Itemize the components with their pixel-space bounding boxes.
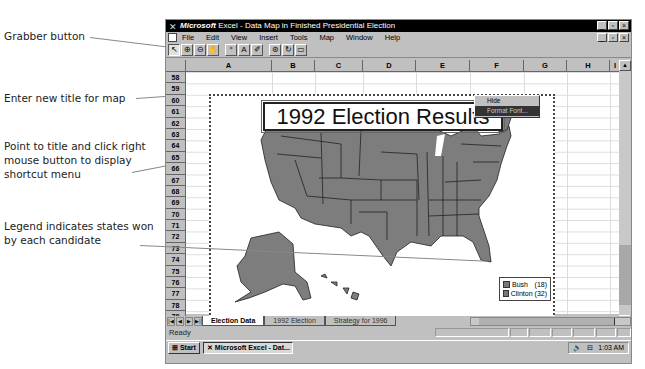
app-name: Microsoft: [180, 21, 216, 30]
redraw-map-icon[interactable]: ↻: [282, 44, 294, 56]
excel-window: ✕ Microsoft Excel - Data Map in Finished…: [165, 19, 632, 364]
column-headers: A B C D E F G H I: [166, 60, 621, 72]
system-tray: 🔈 ⊟ 1:03 AM: [568, 342, 629, 354]
legend-item-clinton: Clinton (32): [503, 289, 547, 298]
document-icon[interactable]: [168, 33, 177, 42]
custom-pin-icon[interactable]: ✐: [251, 44, 263, 56]
start-button[interactable]: ⊞ Start: [168, 342, 200, 354]
callout-legend: Legend indicates states won by each cand…: [4, 219, 154, 247]
first-sheet-icon[interactable]: |◀: [167, 317, 175, 326]
callout-grabber-button: Grabber button: [4, 29, 85, 43]
worksheet-grid[interactable]: A B C D E F G H I 58 59 60 61 62 63 64 6…: [166, 60, 621, 314]
show-control-icon[interactable]: ▭: [295, 44, 307, 56]
menu-bar: File Edit View Insert Tools Map Window H…: [166, 32, 631, 43]
minimize-button[interactable]: _: [597, 21, 607, 30]
row-header[interactable]: 64: [166, 140, 186, 151]
horizontal-scrollbar[interactable]: [470, 317, 631, 326]
tab-1992-election[interactable]: 1992 Election: [264, 316, 324, 326]
zoom-out-icon[interactable]: ⊖: [194, 44, 206, 56]
maximize-button[interactable]: ▫: [608, 21, 618, 30]
scroll-up-icon[interactable]: ▲: [619, 60, 631, 71]
column-header[interactable]: E: [416, 60, 470, 72]
map-legend[interactable]: Bush (18) Clinton (32): [499, 277, 551, 301]
menu-item-format-font[interactable]: Format Font...: [475, 106, 539, 116]
legend-swatch: [503, 290, 509, 297]
window-title: Excel - Data Map in Finished Presidentia…: [218, 21, 395, 30]
row-header[interactable]: 69: [166, 197, 186, 208]
row-headers: 58 59 60 61 62 63 64 65 66 67 68 69 70 7…: [166, 72, 186, 323]
last-sheet-icon[interactable]: ▶|: [194, 317, 202, 326]
doc-restore-button[interactable]: ▫: [608, 33, 618, 42]
taskbar-excel-item[interactable]: ✕ Microsoft Excel - Dat...: [203, 342, 293, 354]
column-header[interactable]: C: [315, 60, 363, 72]
map-title[interactable]: 1992 Election Results: [263, 102, 503, 131]
legend-swatch: [503, 281, 510, 288]
column-header[interactable]: G: [524, 60, 567, 72]
clock[interactable]: 1:03 AM: [598, 343, 624, 353]
tab-strategy-1996[interactable]: Strategy for 1996: [325, 316, 397, 326]
tab-election-data[interactable]: Election Data: [202, 316, 264, 326]
network-icon[interactable]: ⊟: [587, 343, 593, 353]
menu-help[interactable]: Help: [385, 32, 400, 43]
title-bar[interactable]: ✕ Microsoft Excel - Data Map in Finished…: [166, 20, 631, 32]
prev-sheet-icon[interactable]: ◀: [176, 317, 184, 326]
column-header[interactable]: A: [186, 60, 272, 72]
display-entire-icon[interactable]: ⊛: [269, 44, 281, 56]
row-header[interactable]: 77: [166, 288, 186, 299]
row-header[interactable]: 59: [166, 83, 186, 94]
row-header[interactable]: 78: [166, 300, 186, 311]
column-header[interactable]: H: [567, 60, 610, 72]
row-header[interactable]: 58: [166, 72, 186, 83]
grabber-hand-icon[interactable]: ✋: [207, 44, 219, 56]
row-header[interactable]: 65: [166, 152, 186, 163]
data-map-object[interactable]: 1992 Election Results Bush (18) Clinton …: [209, 94, 555, 322]
column-header[interactable]: D: [363, 60, 416, 72]
row-header[interactable]: 75: [166, 266, 186, 277]
menu-edit[interactable]: Edit: [206, 32, 219, 43]
menu-view[interactable]: View: [231, 32, 247, 43]
row-header[interactable]: 71: [166, 220, 186, 231]
add-text-icon[interactable]: A: [238, 44, 250, 56]
scroll-thumb[interactable]: [619, 245, 631, 305]
taskbar: ⊞ Start ✕ Microsoft Excel - Dat... 🔈 ⊟ 1…: [166, 340, 631, 354]
map-toolbar: ↖ ⊕ ⊖ ✋ ⁺ A ✐ ⊛ ↻ ▭: [166, 43, 631, 58]
vertical-scrollbar[interactable]: ▲ ▼: [619, 60, 631, 326]
hscroll-thumb[interactable]: [479, 318, 615, 325]
status-bar: Ready: [166, 327, 631, 338]
row-header[interactable]: 73: [166, 243, 186, 254]
column-header[interactable]: F: [470, 60, 524, 72]
row-header[interactable]: 70: [166, 209, 186, 220]
row-header[interactable]: 66: [166, 163, 186, 174]
menu-tools[interactable]: Tools: [290, 32, 308, 43]
menu-window[interactable]: Window: [346, 32, 373, 43]
shortcut-menu: Hide Format Font...: [474, 95, 540, 118]
row-header[interactable]: 76: [166, 277, 186, 288]
leader-line: [90, 37, 168, 47]
row-header[interactable]: 63: [166, 129, 186, 140]
next-sheet-icon[interactable]: ▶: [185, 317, 193, 326]
zoom-in-icon[interactable]: ⊕: [181, 44, 193, 56]
doc-close-button[interactable]: ×: [619, 33, 629, 42]
menu-insert[interactable]: Insert: [259, 32, 278, 43]
row-header[interactable]: 62: [166, 118, 186, 129]
speaker-icon[interactable]: 🔈: [573, 343, 582, 353]
row-header[interactable]: 67: [166, 175, 186, 186]
status-text: Ready: [169, 327, 191, 338]
legend-item-bush: Bush (18): [503, 280, 547, 289]
row-header[interactable]: 74: [166, 254, 186, 265]
row-header[interactable]: 72: [166, 231, 186, 242]
menu-item-hide[interactable]: Hide: [475, 96, 539, 106]
close-button[interactable]: ×: [619, 21, 629, 30]
menu-file[interactable]: File: [182, 32, 194, 43]
select-pointer-icon[interactable]: ↖: [168, 44, 180, 56]
callout-shortcut-menu: Point to title and click right mouse but…: [4, 139, 154, 181]
sheet-tab-bar: |◀ ◀ ▶ ▶| Election Data 1992 Election St…: [166, 316, 631, 326]
row-header[interactable]: 68: [166, 186, 186, 197]
doc-minimize-button[interactable]: _: [597, 33, 607, 42]
row-header[interactable]: 61: [166, 106, 186, 117]
menu-map[interactable]: Map: [319, 32, 334, 43]
select-all-corner[interactable]: [166, 60, 186, 72]
row-header[interactable]: 60: [166, 95, 186, 106]
column-header[interactable]: B: [272, 60, 315, 72]
map-labels-icon[interactable]: ⁺: [225, 44, 237, 56]
